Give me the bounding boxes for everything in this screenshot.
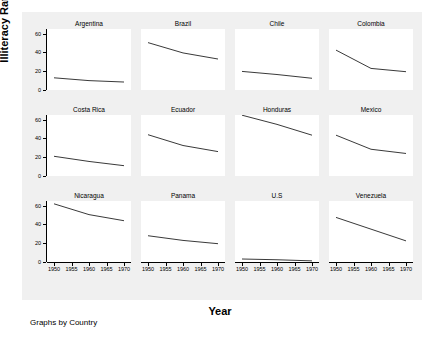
y-axis-tick-label: 20 bbox=[25, 68, 41, 74]
x-axis-tick-label: 1960 bbox=[174, 266, 192, 273]
chart-root: Illiteracy Rate 14+ Argentina0204060Braz… bbox=[0, 0, 440, 338]
panel-costa-rica: Costa Rica0204060 bbox=[47, 104, 131, 184]
x-axis-title: Year bbox=[0, 305, 440, 317]
x-axis-tick-label: 1955 bbox=[157, 266, 175, 273]
data-line bbox=[242, 115, 312, 135]
y-axis-tick bbox=[43, 224, 46, 225]
panel-row: Argentina0204060BrazilChileColombia bbox=[47, 18, 413, 98]
y-axis-tick-label: 40 bbox=[25, 135, 41, 141]
x-axis-tick-label: 1955 bbox=[251, 266, 269, 273]
panel-panama: Panama19501955196019651970 bbox=[141, 190, 225, 270]
panel-plot-area bbox=[141, 115, 225, 176]
y-axis-tick bbox=[43, 138, 46, 139]
chart-note: Graphs by Country bbox=[30, 318, 97, 327]
y-axis-title: Illiteracy Rate 14+ bbox=[0, 0, 10, 96]
panel-plot-area bbox=[329, 29, 413, 90]
y-axis-line bbox=[46, 29, 47, 90]
data-line bbox=[148, 43, 218, 59]
y-axis-tick-label: 0 bbox=[25, 259, 41, 265]
y-axis-tick bbox=[43, 206, 46, 207]
panel-u-s: U.S19501955196019651970 bbox=[235, 190, 319, 270]
panel-chile: Chile bbox=[235, 18, 319, 98]
panel-plot-area bbox=[329, 201, 413, 262]
x-axis-tick-label: 1965 bbox=[98, 266, 116, 273]
panel-title: Nicaragua bbox=[47, 190, 131, 201]
x-axis-tick-label: 1950 bbox=[139, 266, 157, 273]
y-axis-tick-label: 40 bbox=[25, 49, 41, 55]
panel-plot-area bbox=[329, 115, 413, 176]
data-line bbox=[242, 259, 312, 261]
y-axis-tick bbox=[43, 176, 46, 177]
panel-title: Ecuador bbox=[141, 104, 225, 115]
y-axis-line bbox=[46, 115, 47, 176]
x-axis-tick-label: 1960 bbox=[362, 266, 380, 273]
y-axis-tick-label: 20 bbox=[25, 154, 41, 160]
data-line bbox=[336, 135, 406, 153]
panel-plot-area bbox=[235, 29, 319, 90]
x-axis-tick-label: 1950 bbox=[45, 266, 63, 273]
y-axis-tick bbox=[43, 120, 46, 121]
panel-plot-area bbox=[235, 201, 319, 262]
y-axis-tick bbox=[43, 262, 46, 263]
panel-title: Mexico bbox=[329, 104, 413, 115]
data-line bbox=[336, 50, 406, 72]
x-axis-tick-label: 1970 bbox=[303, 266, 321, 273]
panel-honduras: Honduras bbox=[235, 104, 319, 184]
x-axis-tick-label: 1965 bbox=[192, 266, 210, 273]
y-axis-tick-label: 60 bbox=[25, 203, 41, 209]
panel-ecuador: Ecuador bbox=[141, 104, 225, 184]
panel-row: Costa Rica0204060EcuadorHondurasMexico bbox=[47, 104, 413, 184]
panel-title: U.S bbox=[235, 190, 319, 201]
y-axis-tick bbox=[43, 71, 46, 72]
panel-plot-area bbox=[47, 115, 131, 176]
panel-title: Honduras bbox=[235, 104, 319, 115]
x-axis-tick-label: 1965 bbox=[380, 266, 398, 273]
panel-venezuela: Venezuela19501955196019651970 bbox=[329, 190, 413, 270]
y-axis-tick-label: 60 bbox=[25, 31, 41, 37]
panel-mexico: Mexico bbox=[329, 104, 413, 184]
x-axis-tick-label: 1960 bbox=[268, 266, 286, 273]
data-line bbox=[148, 236, 218, 244]
x-axis-tick-label: 1950 bbox=[327, 266, 345, 273]
y-axis-tick bbox=[43, 157, 46, 158]
y-axis-tick-label: 0 bbox=[25, 87, 41, 93]
data-line bbox=[242, 71, 312, 78]
panel-plot-area bbox=[235, 115, 319, 176]
panel-title: Brazil bbox=[141, 18, 225, 29]
x-axis-tick-label: 1965 bbox=[286, 266, 304, 273]
panel-plot-area bbox=[141, 201, 225, 262]
panel-title: Venezuela bbox=[329, 190, 413, 201]
data-line bbox=[54, 78, 124, 82]
y-axis-tick-label: 20 bbox=[25, 240, 41, 246]
y-axis-tick-label: 40 bbox=[25, 221, 41, 227]
panel-plot-area bbox=[47, 201, 131, 262]
panel-row: Nicaragua020406019501955196019651970Pana… bbox=[47, 190, 413, 270]
x-axis-tick-label: 1950 bbox=[233, 266, 251, 273]
panel-plot-area bbox=[141, 29, 225, 90]
panel-title: Argentina bbox=[47, 18, 131, 29]
panel-nicaragua: Nicaragua020406019501955196019651970 bbox=[47, 190, 131, 270]
data-line bbox=[54, 204, 124, 221]
panel-title: Panama bbox=[141, 190, 225, 201]
y-axis-tick bbox=[43, 90, 46, 91]
y-axis-line bbox=[46, 201, 47, 262]
data-line bbox=[336, 217, 406, 240]
panel-title: Costa Rica bbox=[47, 104, 131, 115]
panel-title: Colombia bbox=[329, 18, 413, 29]
x-axis-tick-label: 1955 bbox=[345, 266, 363, 273]
panel-grid: Argentina0204060BrazilChileColombiaCosta… bbox=[47, 18, 413, 276]
y-axis-tick bbox=[43, 52, 46, 53]
panel-argentina: Argentina0204060 bbox=[47, 18, 131, 98]
x-axis-tick-label: 1970 bbox=[115, 266, 133, 273]
panel-title: Chile bbox=[235, 18, 319, 29]
data-line bbox=[148, 135, 218, 152]
panel-colombia: Colombia bbox=[329, 18, 413, 98]
x-axis-tick-label: 1970 bbox=[209, 266, 227, 273]
y-axis-tick bbox=[43, 243, 46, 244]
panel-plot-area bbox=[47, 29, 131, 90]
y-axis-tick-label: 60 bbox=[25, 117, 41, 123]
panel-brazil: Brazil bbox=[141, 18, 225, 98]
y-axis-tick-label: 0 bbox=[25, 173, 41, 179]
x-axis-tick-label: 1955 bbox=[63, 266, 81, 273]
x-axis-tick-label: 1960 bbox=[80, 266, 98, 273]
